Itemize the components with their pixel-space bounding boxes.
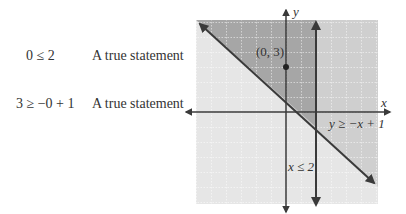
- test-point: [283, 64, 289, 70]
- y-axis-label: y: [291, 4, 299, 19]
- point-label: (0, 3): [256, 44, 284, 59]
- line2-label: x ≤ 2: [287, 159, 314, 174]
- x-axis-label: x: [380, 95, 387, 110]
- inequality-graph: y x (0, 3) y ≥ −x + 1 x ≤ 2: [0, 0, 406, 214]
- line1-label: y ≥ −x + 1: [327, 116, 385, 131]
